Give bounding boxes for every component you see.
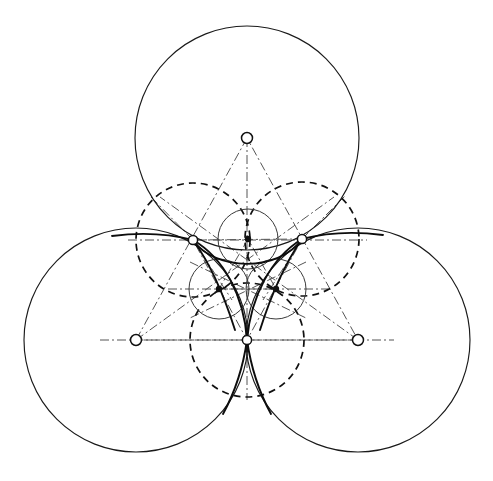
geometric-figure-canvas <box>0 0 493 481</box>
deltoid-tail-upper-right-a <box>302 233 383 239</box>
tangent-node-upper-right[interactable] <box>297 234 306 243</box>
center-node-top[interactable] <box>242 133 253 144</box>
center-node-right[interactable] <box>353 335 364 346</box>
small-center-node-top[interactable] <box>245 236 251 242</box>
tangent-node-upper-left[interactable] <box>188 235 197 244</box>
deltoid-tail-upper-right-b <box>260 239 302 330</box>
deltoid-tail-bottom-right <box>247 340 271 414</box>
small-center-node-lower-left[interactable] <box>216 286 222 292</box>
tangent-node-bottom[interactable] <box>242 335 251 344</box>
center-node-left[interactable] <box>131 335 142 346</box>
small-center-node-lower-right[interactable] <box>273 286 279 292</box>
deltoid-tail-bottom-left <box>223 340 247 414</box>
axis-median-left <box>136 197 334 340</box>
deltoid-tail-upper-left-a <box>112 234 193 240</box>
construction-svg <box>0 0 493 481</box>
